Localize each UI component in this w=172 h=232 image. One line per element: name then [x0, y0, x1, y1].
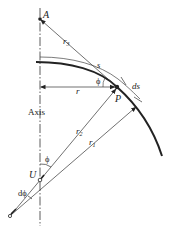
r1-line: [11, 107, 136, 215]
point-p: [115, 85, 119, 89]
label-r2: r2: [76, 126, 83, 137]
label-p: P: [114, 93, 121, 104]
r3-line: [41, 20, 117, 87]
label-dphi: dϕ: [18, 188, 27, 198]
ds-tick-2: [134, 97, 142, 102]
label-u: U: [29, 169, 37, 180]
label-phi-bottom: ϕ: [45, 154, 50, 164]
r2-line: [11, 89, 116, 215]
label-r3: r3: [63, 36, 70, 47]
label-a: A: [42, 9, 50, 20]
point-a: [38, 17, 42, 21]
origin-point: [8, 214, 11, 217]
label-r: r: [76, 86, 80, 96]
point-u: [38, 178, 42, 182]
phi-angle-arc-p: [103, 78, 105, 87]
label-axis: Axis: [28, 107, 46, 117]
label-ds: ds: [132, 81, 141, 91]
phi-angle-arc: [40, 164, 51, 167]
label-phi-top: ϕ: [96, 76, 101, 86]
shell-geometry-diagram: A r3 s ϕ ds r P Axis r2 r1 ϕ U dϕ: [0, 0, 172, 232]
label-r1: r1: [89, 137, 96, 148]
